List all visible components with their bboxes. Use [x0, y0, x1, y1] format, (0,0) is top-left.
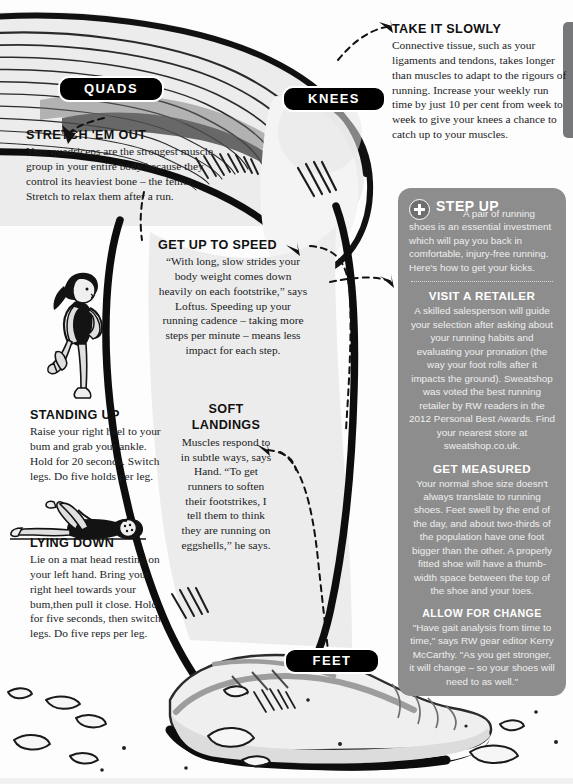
label-quads[interactable]: QUADS [58, 76, 164, 102]
take-it-slowly-body: Connective tissue, such as your ligament… [392, 38, 568, 141]
standing-stretch-illustration [40, 268, 130, 404]
infographic-page: QUADS KNEES FEET STRETCH 'EM OUT Your qu… [0, 0, 573, 784]
soft-landings-heading-line2: LANDINGS [178, 418, 274, 432]
callout-get-up-to-speed: GET UP TO SPEED “With long, slow strides… [158, 238, 308, 357]
stretch-em-out-body: Your quadriceps are the strongest muscle… [26, 144, 224, 203]
soft-landings-body: Muscles respond to in subtle ways, says … [178, 435, 274, 553]
callout-lying-down: LYING DOWN Lie on a mat head resting on … [30, 536, 172, 641]
get-up-to-speed-body: “With long, slow strides your body weigh… [158, 254, 308, 357]
plus-icon [409, 199, 430, 220]
standing-up-body: Raise your right heel to your bum and gr… [30, 424, 172, 483]
callout-soft-landings: SOFT LANDINGS Muscles respond to in subt… [178, 402, 274, 553]
lying-down-heading: LYING DOWN [30, 536, 172, 550]
visit-a-retailer-heading: VISIT A RETAILER [409, 289, 555, 302]
take-it-slowly-heading: TAKE IT SLOWLY [392, 22, 568, 36]
allow-for-change-body: "Have gait analysis from time to time," … [409, 621, 555, 688]
callout-stretch-em-out: STRETCH 'EM OUT Your quadriceps are the … [26, 128, 224, 203]
panel-divider [411, 281, 553, 282]
panel-section-allow-for-change: ALLOW FOR CHANGE "Have gait analysis fro… [409, 607, 555, 688]
callout-take-it-slowly: TAKE IT SLOWLY Connective tissue, such a… [392, 22, 568, 141]
get-measured-heading: GET MEASURED [409, 462, 555, 475]
callout-standing-up: STANDING UP Raise your right heel to you… [30, 408, 172, 483]
get-measured-body: Your normal shoe size doesn't always tra… [409, 477, 555, 598]
get-up-to-speed-heading: GET UP TO SPEED [158, 238, 308, 252]
panel-section-get-measured: GET MEASURED Your normal shoe size doesn… [409, 462, 555, 598]
panel-section-visit-a-retailer: VISIT A RETAILER A skilled salesperson w… [409, 289, 555, 452]
allow-for-change-heading: ALLOW FOR CHANGE [409, 607, 555, 619]
step-up-panel: STEP UP A pair of running shoes is an es… [398, 188, 566, 696]
step-up-intro: A pair of running shoes is an essential … [409, 207, 555, 274]
label-feet[interactable]: FEET [284, 648, 380, 674]
label-knees[interactable]: KNEES [282, 86, 386, 112]
stretch-em-out-heading: STRETCH 'EM OUT [26, 128, 224, 142]
page-bottom-edge [0, 778, 573, 784]
standing-up-heading: STANDING UP [30, 408, 172, 422]
soft-landings-heading-line1: SOFT [178, 402, 274, 416]
lying-down-body: Lie on a mat head resting on your left h… [30, 552, 172, 640]
visit-a-retailer-body: A skilled salesperson will guide your se… [409, 304, 555, 452]
